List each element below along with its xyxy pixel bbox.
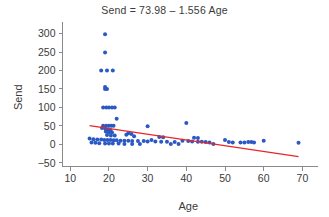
data-point bbox=[105, 133, 109, 137]
data-point bbox=[177, 142, 181, 146]
data-point bbox=[223, 138, 227, 142]
data-point bbox=[252, 140, 256, 144]
data-point bbox=[173, 140, 177, 144]
plot-canvas: 10203040506070−50050100150200250300AgeSe… bbox=[0, 0, 329, 217]
data-point bbox=[192, 136, 196, 140]
data-point bbox=[122, 142, 126, 146]
data-point bbox=[111, 68, 115, 72]
y-axis-title: Send bbox=[12, 84, 24, 110]
data-points-layer bbox=[88, 32, 301, 146]
y-tick-label: 0 bbox=[50, 138, 56, 150]
x-tick-label: 70 bbox=[297, 172, 309, 184]
data-point bbox=[99, 68, 103, 72]
data-point bbox=[132, 134, 136, 138]
x-axis-title: Age bbox=[178, 200, 198, 212]
data-point bbox=[153, 139, 157, 143]
x-tick-label: 40 bbox=[180, 172, 192, 184]
y-tick-label: 200 bbox=[38, 64, 56, 76]
data-point bbox=[138, 142, 142, 146]
data-point bbox=[159, 140, 163, 144]
data-point bbox=[105, 68, 109, 72]
data-point bbox=[90, 140, 94, 144]
data-point bbox=[169, 142, 173, 146]
data-point bbox=[238, 140, 242, 144]
data-point bbox=[117, 142, 121, 146]
data-point bbox=[184, 121, 188, 125]
data-point bbox=[109, 133, 113, 137]
x-tick-label: 50 bbox=[219, 172, 231, 184]
data-point bbox=[149, 138, 153, 142]
data-point bbox=[103, 32, 107, 36]
data-point bbox=[113, 105, 117, 109]
data-point bbox=[107, 142, 111, 146]
data-point bbox=[142, 139, 146, 143]
y-tick-label: 50 bbox=[44, 120, 56, 132]
data-point bbox=[146, 124, 150, 128]
data-point bbox=[227, 140, 231, 144]
data-point bbox=[126, 139, 130, 143]
y-tick-label: 300 bbox=[38, 27, 56, 39]
data-point bbox=[113, 133, 117, 137]
scatter-plot-figure: Send = 73.98 – 1.556 Age 10203040506070−… bbox=[0, 0, 329, 217]
x-tick-label: 10 bbox=[64, 172, 76, 184]
y-tick-label: 250 bbox=[38, 46, 56, 58]
data-point bbox=[97, 141, 101, 145]
x-tick-label: 60 bbox=[258, 172, 270, 184]
x-tick-label: 30 bbox=[142, 172, 154, 184]
data-point bbox=[165, 140, 169, 144]
y-tick-label: 100 bbox=[38, 101, 56, 113]
data-point bbox=[196, 136, 200, 140]
data-point bbox=[105, 87, 109, 91]
axes-layer bbox=[59, 22, 319, 171]
data-point bbox=[146, 139, 150, 143]
data-point bbox=[262, 139, 266, 143]
data-point bbox=[297, 141, 301, 145]
data-point bbox=[112, 124, 116, 128]
x-tick-label: 20 bbox=[103, 172, 115, 184]
data-point bbox=[88, 136, 92, 140]
data-point bbox=[93, 141, 97, 145]
y-tick-label: −50 bbox=[38, 157, 56, 169]
axis-labels-layer: 10203040506070−50050100150200250300AgeSe… bbox=[12, 27, 308, 212]
data-point bbox=[231, 140, 235, 144]
data-point bbox=[124, 133, 128, 137]
data-point bbox=[103, 50, 107, 54]
data-point bbox=[111, 142, 115, 146]
data-point bbox=[242, 140, 246, 144]
data-point bbox=[130, 142, 134, 146]
data-point bbox=[103, 142, 107, 146]
y-tick-label: 150 bbox=[38, 83, 56, 95]
data-point bbox=[115, 117, 119, 121]
